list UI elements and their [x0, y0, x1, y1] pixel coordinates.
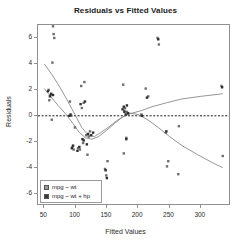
data-point-series-0 — [48, 99, 50, 101]
x-tick-label: 50 — [31, 211, 55, 218]
data-point-series-0 — [177, 173, 179, 175]
data-point-series-1 — [49, 95, 51, 97]
data-point-series-1 — [86, 143, 88, 145]
data-point-series-1 — [71, 147, 73, 149]
data-point-series-1 — [52, 94, 54, 96]
y-tick-mark — [34, 89, 37, 90]
data-point-series-0 — [222, 155, 224, 157]
data-point-series-1 — [78, 146, 80, 148]
data-point-series-1 — [92, 131, 94, 133]
chart-title: Residuals vs Fitted Values — [0, 6, 251, 15]
data-point-series-1 — [84, 100, 86, 102]
x-tick-label: 100 — [63, 211, 87, 218]
data-point-series-1 — [87, 133, 89, 135]
data-point-series-1 — [127, 112, 129, 114]
data-point-series-0 — [86, 154, 88, 156]
data-point-series-0 — [79, 148, 81, 150]
plot-area — [37, 24, 230, 205]
data-point-series-1 — [221, 86, 223, 88]
data-point-series-1 — [123, 106, 125, 108]
data-point-series-0 — [105, 174, 107, 176]
data-point-series-0 — [83, 81, 85, 83]
data-point-series-1 — [83, 139, 85, 141]
data-point-series-1 — [126, 104, 128, 106]
data-point-series-1 — [123, 111, 125, 113]
smooth-curve-0 — [44, 64, 222, 137]
data-point-series-0 — [53, 37, 55, 39]
y-tick-mark — [34, 63, 37, 64]
data-point-series-0 — [52, 25, 54, 27]
y-tick-label: -4 — [18, 163, 32, 171]
x-tick-mark — [43, 205, 44, 208]
data-point-series-0 — [89, 130, 91, 132]
legend-swatch-icon — [44, 185, 49, 190]
data-point-series-0 — [82, 142, 84, 144]
y-tick-label: 0 — [18, 111, 32, 119]
residual-plot-figure: Residuals vs Fitted Values Fitted Values… — [0, 0, 251, 244]
data-point-series-0 — [74, 126, 76, 128]
data-point-series-0 — [106, 160, 108, 162]
x-tick-mark — [137, 205, 138, 208]
data-point-series-0 — [51, 118, 53, 120]
x-tick-mark — [106, 205, 107, 208]
y-tick-label: 2 — [18, 85, 32, 93]
y-tick-mark — [34, 37, 37, 38]
y-tick-mark — [34, 115, 37, 116]
data-point-series-0 — [167, 160, 169, 162]
data-point-series-1 — [141, 115, 143, 117]
data-point-series-0 — [81, 107, 83, 109]
legend-item-label: mpg ~ wt — [52, 183, 77, 192]
data-point-series-0 — [69, 100, 71, 102]
legend-swatch-icon — [44, 194, 49, 199]
x-tick-mark — [75, 205, 76, 208]
legend-item-0[interactable]: mpg ~ wt — [44, 183, 98, 192]
data-point-series-0 — [80, 85, 82, 87]
data-point-series-1 — [157, 38, 159, 40]
legend-item-label: mpg ~ wt + hp — [52, 192, 90, 201]
data-point-series-1 — [106, 177, 108, 179]
data-point-series-1 — [125, 138, 127, 140]
y-tick-label: 4 — [18, 59, 32, 67]
data-point-series-0 — [178, 125, 180, 127]
x-axis-label: Fitted Values — [0, 228, 251, 235]
x-tick-label: 250 — [157, 211, 181, 218]
y-tick-mark — [34, 193, 37, 194]
y-axis-label: Residuals — [5, 82, 12, 142]
data-point-series-1 — [121, 108, 123, 110]
plot-canvas — [38, 25, 229, 204]
legend: mpg ~ wtmpg ~ wt + hp — [40, 180, 102, 203]
data-point-series-1 — [76, 150, 78, 152]
y-tick-label: 6 — [18, 33, 32, 41]
data-point-series-1 — [90, 134, 92, 136]
legend-item-1[interactable]: mpg ~ wt + hp — [44, 192, 98, 201]
data-point-series-1 — [146, 96, 148, 98]
data-point-series-1 — [124, 113, 126, 115]
data-point-series-1 — [47, 90, 49, 92]
x-tick-mark — [169, 205, 170, 208]
y-tick-label: -2 — [18, 137, 32, 145]
y-tick-mark — [34, 141, 37, 142]
y-tick-label: -6 — [18, 189, 32, 197]
data-point-series-0 — [52, 33, 54, 35]
data-point-series-1 — [79, 103, 81, 105]
data-point-series-1 — [104, 169, 106, 171]
data-point-series-0 — [123, 152, 125, 154]
data-point-series-0 — [166, 165, 168, 167]
x-tick-label: 200 — [125, 211, 149, 218]
x-tick-label: 150 — [94, 211, 118, 218]
x-tick-label: 300 — [188, 211, 212, 218]
data-point-series-0 — [158, 43, 160, 45]
data-point-series-0 — [145, 87, 147, 89]
data-point-series-1 — [69, 113, 71, 115]
data-point-series-1 — [165, 130, 167, 132]
x-tick-mark — [200, 205, 201, 208]
data-point-series-0 — [122, 83, 124, 85]
data-point-series-1 — [72, 144, 74, 146]
y-tick-mark — [34, 167, 37, 168]
data-point-series-0 — [88, 135, 90, 137]
data-point-series-0 — [51, 61, 53, 63]
